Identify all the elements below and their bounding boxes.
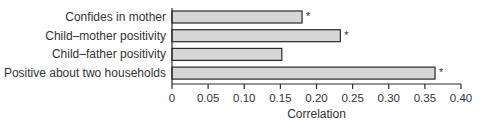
significance-star-0: * (306, 10, 311, 22)
category-label-1: Child–mother positivity (45, 29, 166, 43)
x-axis-label: Correlation (287, 107, 346, 121)
x-tick-label-4: 0.20 (305, 92, 327, 104)
x-tick-label-8: 0.40 (450, 92, 472, 104)
bars-group (172, 11, 435, 79)
x-tick-label-0: 0 (169, 92, 175, 104)
bar-3 (172, 67, 435, 79)
x-tick-label-5: 0.25 (341, 92, 363, 104)
x-tick-label-6: 0.30 (378, 92, 400, 104)
bar-1 (172, 30, 340, 42)
x-tick-label-3: 0.15 (269, 92, 291, 104)
category-label-3: Positive about two households (4, 66, 166, 80)
correlation-bar-chart: Confides in motherChild–mother positivit… (0, 0, 490, 127)
category-label-0: Confides in mother (65, 10, 166, 24)
x-tick-label-2: 0.10 (233, 92, 255, 104)
category-labels: Confides in motherChild–mother positivit… (4, 10, 166, 80)
significance-star-1: * (344, 29, 349, 41)
bar-2 (172, 48, 282, 60)
category-label-2: Child–father positivity (52, 47, 166, 61)
bar-0 (172, 11, 302, 23)
x-tick-label-1: 0.05 (197, 92, 219, 104)
x-tick-label-7: 0.35 (414, 92, 436, 104)
significance-star-3: * (439, 66, 444, 78)
